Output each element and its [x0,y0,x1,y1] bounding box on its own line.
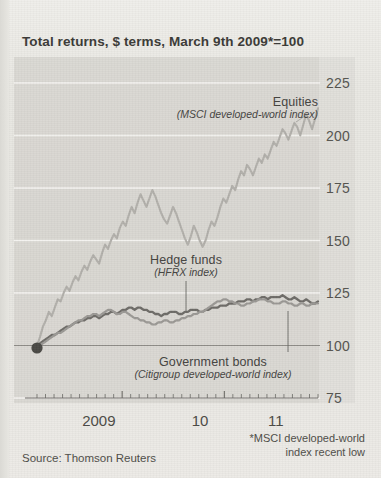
y-axis-tick-100: 100 [326,338,350,354]
series-label-hedge-funds-sub: (HFRX index) [150,267,222,279]
y-axis-tick-75: 75 [326,390,342,406]
source-note: Source: Thomson Reuters [22,452,156,464]
series-label-gov-bonds-sub: (Citigroup developed-world index) [135,369,292,381]
page-left-edge [0,0,9,478]
x-axis-tick-2009: 2009 [82,412,115,429]
leader-lines [186,116,305,352]
footnote-line-1: *MSCI developed-world [249,432,365,446]
x-axis [25,391,318,398]
y-axis-tick-125: 125 [326,285,350,301]
x-axis-tick-10: 10 [192,412,209,429]
chart-title: Total returns, $ terms, March 9th 2009*=… [22,34,304,49]
series-label-hedge-funds: Hedge funds (HFRX index) [150,253,222,279]
series-label-equities-name: Equities [177,95,318,109]
baseline-marker [31,342,42,353]
series-lines [37,108,318,345]
y-axis-tick-200: 200 [326,128,350,144]
series-label-gov-bonds: Government bonds (Citigroup developed-wo… [135,355,292,381]
footnote-line-2: index recent low [249,446,365,460]
x-axis-tick-11: 11 [268,412,284,429]
y-axis-tick-225: 225 [326,75,350,91]
series-label-equities-sub: (MSCI developed-world index) [177,109,318,121]
y-axis-tick-175: 175 [326,180,350,196]
footnote: *MSCI developed-world index recent low [249,432,365,460]
gridlines [14,83,320,398]
series-label-gov-bonds-name: Government bonds [135,355,292,369]
series-label-equities: Equities (MSCI developed-world index) [177,95,318,121]
series-label-hedge-funds-name: Hedge funds [150,253,222,267]
chart-canvas [0,0,381,478]
y-axis-tick-150: 150 [326,233,350,249]
